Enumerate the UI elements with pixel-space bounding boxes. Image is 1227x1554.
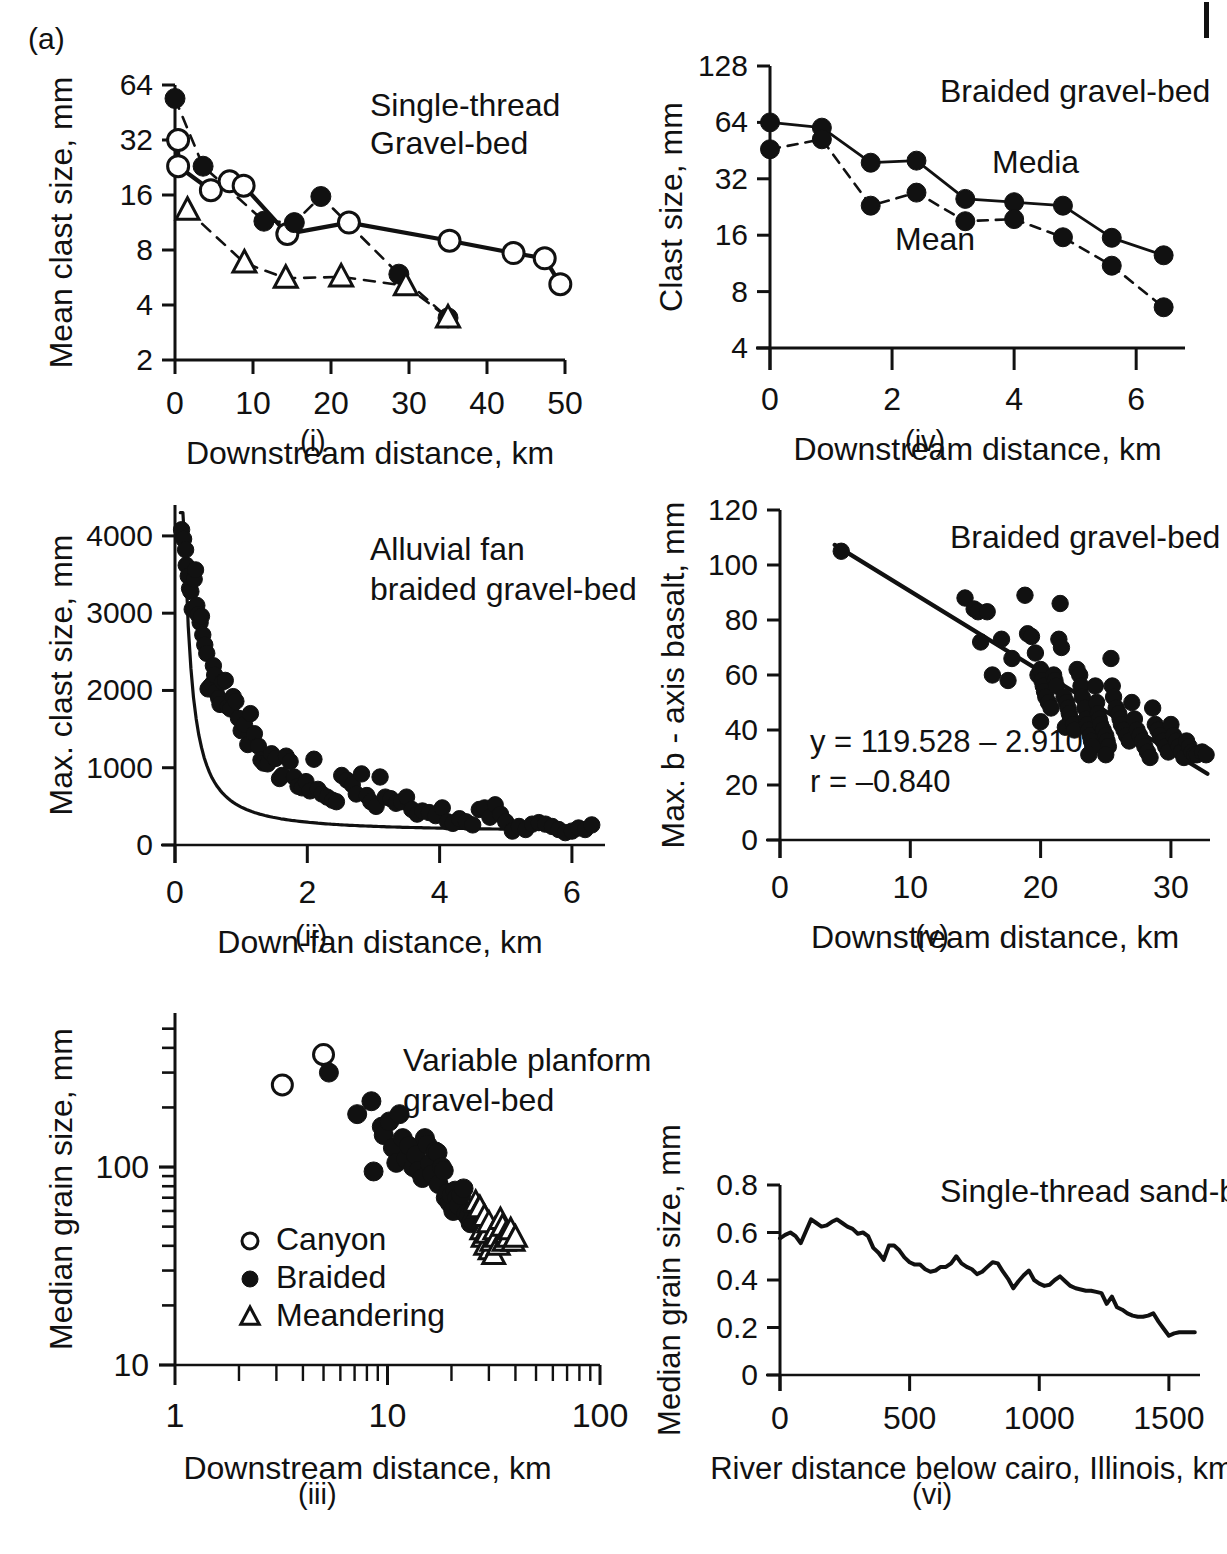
data-point-open — [272, 1075, 292, 1095]
legend-marker-braided — [242, 1271, 258, 1287]
x-axis-title: Downstream distance, km — [186, 435, 554, 471]
data-point-open — [550, 274, 571, 295]
x-tick-label: 500 — [883, 1400, 936, 1436]
data-point-open — [314, 1045, 334, 1065]
x-tick-label: 10 — [369, 1396, 407, 1434]
y-tick-label: 2 — [136, 343, 153, 376]
y-axis-title: Mean clast size, mm — [43, 77, 79, 369]
data-point-filled — [1023, 628, 1039, 644]
panel-annotation-line1: Single-thread — [370, 87, 560, 123]
panel-vi: 00.20.40.60.8050010001500River distance … — [640, 1150, 1220, 1480]
data-point-Mean — [861, 196, 880, 215]
data-point-filled — [1043, 700, 1059, 716]
data-point-triangle — [330, 264, 353, 286]
x-tick-label: 2 — [883, 381, 901, 417]
data-point-open — [338, 212, 359, 233]
data-point-filled — [1098, 747, 1114, 763]
x-tick-label: 20 — [313, 385, 349, 421]
y-axis-title: Median grain size, mm — [652, 1124, 687, 1436]
x-axis-title: River distance below cairo, Illinois, km — [710, 1451, 1227, 1486]
data-point-Media — [1102, 228, 1121, 247]
data-point-Mean — [1102, 256, 1121, 275]
data-point-Mean — [1154, 298, 1173, 317]
data-point-Media — [1005, 193, 1024, 212]
panel-ii-tag: (ii) — [295, 920, 327, 953]
data-point-triangle — [176, 198, 199, 220]
data-point-filled — [193, 608, 209, 624]
x-tick-label: 6 — [1127, 381, 1145, 417]
y-axis-title: Clast size, mm — [653, 102, 689, 312]
data-point-filled — [306, 751, 322, 767]
legend-label-braided: Braided — [276, 1259, 386, 1295]
correlation-value: r = –0.840 — [810, 764, 950, 799]
x-axis-title: Downstream distance, km — [793, 431, 1161, 467]
data-point-filled — [372, 769, 388, 785]
y-tick-label: 1000 — [86, 751, 153, 784]
data-point-filled — [353, 766, 369, 782]
data-point-filled — [328, 794, 344, 810]
y-tick-label: 0.2 — [716, 1311, 758, 1344]
x-tick-label: 0 — [166, 385, 184, 421]
y-tick-label: 128 — [698, 49, 748, 82]
regression-equation: y = 119.528 – 2.910x — [810, 724, 1099, 759]
data-point-filled — [1004, 650, 1020, 666]
data-point-filled — [217, 672, 233, 688]
y-tick-label: 100 — [708, 548, 758, 581]
y-tick-label: 4 — [136, 288, 153, 321]
x-tick-label: 10 — [235, 385, 271, 421]
data-point-open — [439, 230, 460, 251]
y-tick-label: 0.8 — [716, 1168, 758, 1201]
x-tick-label: 0 — [166, 874, 184, 910]
x-tick-label: 30 — [391, 385, 427, 421]
y-tick-label: 16 — [120, 178, 153, 211]
y-tick-label: 4 — [731, 331, 748, 364]
data-point-filled — [390, 1105, 409, 1124]
data-point-filled — [1000, 672, 1016, 688]
panel-annotation-line2: braided gravel-bed — [370, 571, 637, 607]
y-tick-label: 0.6 — [716, 1216, 758, 1249]
x-tick-label: 1000 — [1004, 1400, 1075, 1436]
data-point-filled — [1027, 645, 1043, 661]
data-point-filled — [1144, 700, 1160, 716]
data-point-filled — [464, 817, 480, 833]
data-point-filled — [284, 213, 304, 233]
x-tick-label: 1500 — [1133, 1400, 1204, 1436]
y-tick-label: 0 — [136, 828, 153, 861]
panel-iv: 481632641280246Downstream distance, kmCl… — [640, 18, 1220, 458]
data-point-triangle — [233, 250, 256, 271]
y-axis-title: Max. clast size, mm — [43, 535, 79, 816]
x-tick-label: 4 — [1005, 381, 1023, 417]
data-point-Media — [1154, 246, 1173, 265]
data-point-filled — [282, 753, 298, 769]
y-tick-label: 0 — [741, 1358, 758, 1391]
panel-annotation: Braided gravel-bed — [940, 73, 1210, 109]
data-point-filled — [979, 604, 995, 620]
data-point-filled — [993, 631, 1009, 647]
x-tick-label: 50 — [547, 385, 583, 421]
y-tick-label: 2000 — [86, 673, 153, 706]
panel-i: 24816326401020304050Downstream distance,… — [20, 30, 620, 460]
data-point-filled — [254, 211, 274, 231]
panel-vi-tag: (vi) — [912, 1478, 952, 1511]
x-tick-label: 1 — [166, 1396, 185, 1434]
data-point-filled — [1087, 678, 1103, 694]
x-tick-label: 0 — [771, 1400, 789, 1436]
series-label-mean: Mean — [895, 221, 975, 257]
data-point-filled — [242, 705, 258, 721]
panel-annotation-line1: Alluvial fan — [370, 531, 525, 567]
data-point-filled — [1053, 639, 1069, 655]
y-tick-label: 40 — [725, 713, 758, 746]
x-tick-label: 20 — [1023, 869, 1059, 905]
legend-marker-canyon — [242, 1233, 258, 1249]
x-tick-label: 40 — [469, 385, 505, 421]
data-point-filled — [454, 1179, 473, 1198]
panel-iv-tag: (iv) — [905, 425, 945, 458]
y-tick-label: 20 — [725, 768, 758, 801]
data-point-filled — [319, 1063, 338, 1082]
y-tick-label: 3000 — [86, 596, 153, 629]
x-tick-label: 6 — [563, 874, 581, 910]
data-point-Mean — [812, 130, 831, 149]
data-point-Media — [761, 113, 780, 132]
y-axis-title: Median grain size, mm — [43, 1028, 79, 1350]
figure-root: (a) 24816326401020304050Downstream dista… — [0, 0, 1227, 1554]
